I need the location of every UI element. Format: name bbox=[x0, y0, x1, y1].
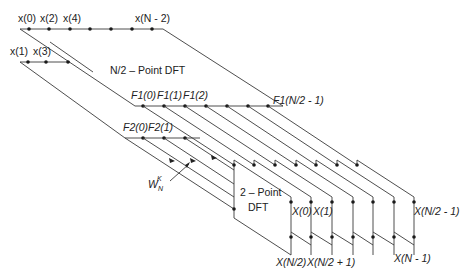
label-f1-1: F1(1) bbox=[157, 89, 182, 101]
f1-to-dft-lines bbox=[143, 106, 357, 165]
label-x0: x(0) bbox=[18, 12, 36, 24]
label-X-n-half-1-plus: X(N/2 + 1) bbox=[306, 256, 355, 268]
label-xn-2: x(N - 2) bbox=[135, 12, 170, 24]
label-n-half-dft: N/2 – Point DFT bbox=[110, 64, 186, 76]
label-twiddle: WNK bbox=[148, 175, 164, 192]
label-2pt-dft-line2: DFT bbox=[248, 201, 269, 213]
label-X0: X(0) bbox=[291, 205, 312, 217]
label-f2-1: F2(1) bbox=[148, 121, 173, 133]
label-X-n-half-1: X(N/2 - 1) bbox=[413, 205, 460, 217]
label-X1: X(1) bbox=[312, 205, 333, 217]
fft-diagram: x(0) x(2) x(4) x(N - 2) x(1) x(3) N/2 – … bbox=[0, 0, 464, 279]
label-x2: x(2) bbox=[40, 12, 58, 24]
label-f2-0: F2(0) bbox=[123, 121, 148, 133]
label-2pt-dft-line1: 2 – Point bbox=[240, 186, 282, 198]
label-f1-2: F1(2) bbox=[183, 89, 208, 101]
label-f1-0: F1(0) bbox=[131, 89, 156, 101]
label-X-n-half: X(N/2) bbox=[275, 256, 306, 268]
label-x3: x(3) bbox=[33, 45, 51, 57]
label-X-n-1: X(N - 1) bbox=[393, 252, 431, 264]
label-f1-n-half-1: F1(N/2 - 1) bbox=[273, 94, 324, 106]
label-x1: x(1) bbox=[10, 45, 28, 57]
label-x4: x(4) bbox=[63, 12, 81, 24]
f2-to-dft-lines bbox=[125, 138, 234, 209]
